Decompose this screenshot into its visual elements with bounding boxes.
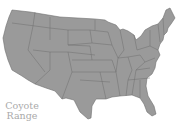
coyote-range-map: Coyote Range — [0, 0, 180, 131]
map-label: Coyote Range — [5, 101, 39, 121]
label-line-2: Range — [5, 111, 39, 121]
